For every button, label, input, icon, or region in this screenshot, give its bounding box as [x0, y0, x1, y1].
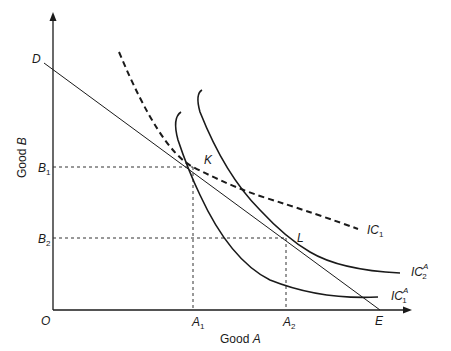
- ic1-label: IC1: [367, 223, 384, 239]
- origin-label: O: [41, 314, 50, 328]
- x-axis-title: Good A: [220, 332, 261, 346]
- budget-line-de: [44, 63, 380, 310]
- tick-a2-label: A2: [282, 315, 296, 331]
- point-e-label: E: [375, 314, 384, 328]
- indifference-curve-diagram: D O E K L B1 B2 A1 A2 Good A Good B IC1 …: [0, 0, 451, 351]
- guide-lines: [53, 167, 286, 310]
- ic1-dashed-curve: [119, 52, 358, 229]
- y-axis-title: Good B: [15, 137, 29, 178]
- tick-b1-label: B1: [38, 161, 51, 177]
- ic1a-label: ICA1: [391, 286, 408, 305]
- x-axis-arrow-icon: [403, 307, 412, 314]
- ic2a-label: ICA2: [411, 262, 428, 281]
- point-l-label: L: [297, 231, 304, 245]
- y-axis-arrow-icon: [50, 12, 57, 21]
- tick-b2-label: B2: [38, 232, 51, 248]
- tick-a1-label: A1: [191, 315, 205, 331]
- ic2a-curve: [198, 90, 400, 273]
- point-d-label: D: [32, 52, 41, 66]
- point-k-label: K: [204, 153, 213, 167]
- ic1a-curve: [176, 112, 378, 297]
- labels: D O E K L B1 B2 A1 A2 Good A Good B IC1 …: [15, 52, 428, 346]
